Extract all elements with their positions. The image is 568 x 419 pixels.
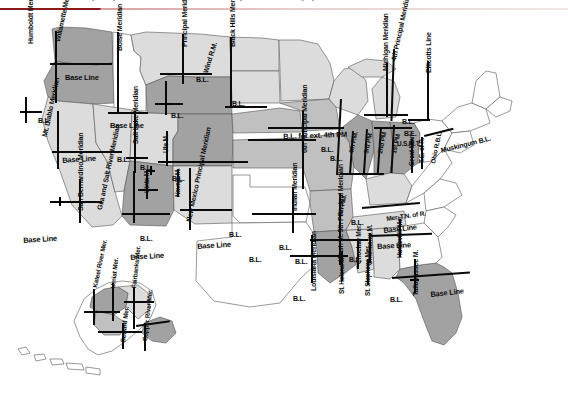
meridian-label-black-hills: Black Hills Meridian	[229, 0, 236, 47]
plss-map: .st{stroke:#555;stroke-width:0.6;stroke-…	[0, 11, 568, 419]
meridian-label-montana-principal: Principal Meridian	[181, 0, 188, 47]
state-south-dakota	[231, 71, 280, 103]
page-header-band: principal meridians and base lines of th…	[0, 0, 568, 11]
baseline-line-illinois	[340, 173, 384, 175]
state-nebraska	[232, 108, 302, 133]
bl-marker-bl-blackhills: B.L.	[232, 100, 244, 107]
baseline-line-oregon	[50, 63, 112, 65]
bl-marker-bl-texas: B.L.	[295, 258, 307, 265]
aleutian-island-3	[50, 359, 64, 365]
bl-marker-bl-oklahoma: B.L.	[279, 244, 291, 251]
baseline-label-bl-ext-4th: B.L. for ext. 4th PM	[283, 131, 347, 141]
meridian-label-ellicotts: Ellicotts Line	[425, 32, 432, 73]
meridian-label-huntsville: Huntsville Mer.	[397, 215, 404, 258]
bl-marker-bl-montana: B.L.	[196, 76, 208, 83]
state-oklahoma	[233, 175, 310, 223]
state-north-dakota	[230, 37, 279, 71]
bl-marker-bl-newmex2: B.L.	[140, 235, 152, 242]
bl-marker-bl-colorado: B.L.	[172, 175, 184, 182]
initial-point-humboldt	[21, 107, 30, 116]
aleutian-island-2	[34, 354, 46, 361]
meridian-label-indian: Indian Meridian	[291, 163, 298, 211]
initial-point-salt-lake	[130, 153, 139, 162]
meridian-line-wind-river	[165, 81, 167, 115]
bl-marker-bl-missouri: B.L.	[321, 146, 333, 153]
bl-marker-bl-illinois: B.L.	[351, 219, 363, 226]
bl-marker-bl-louisiana: B.L.	[293, 295, 305, 302]
baseline-line-montana	[160, 73, 212, 75]
meridian-label-sixth-principal: 6th Principal Meridian	[301, 85, 308, 153]
bl-marker-bl-alabama2: B.L.	[390, 296, 402, 303]
baseline-line-kateel-river	[84, 311, 120, 313]
initial-point-ute	[162, 157, 171, 166]
aleutian-island-4	[66, 363, 84, 370]
meridian-label-michigan: Michigan Meridian	[382, 13, 389, 71]
baseline-line-indian	[252, 213, 316, 215]
meridian-line-gila-salt	[133, 171, 135, 223]
meridian-label-san-bernardino: San Bernardino Meridian	[77, 133, 84, 211]
meridian-line-michigan	[386, 63, 388, 117]
meridian-label-st-helena: St. Helena M.	[339, 256, 346, 294]
meridian-label-st-stephens: St. Stephens Mer.	[365, 245, 372, 296]
meridian-label-humboldt: Humboldt Meridian	[27, 0, 34, 44]
meridian-label-boise: Boise Meridian	[116, 4, 123, 51]
meridian-label-ute: Ute M.	[163, 135, 170, 153]
baseline-line-gila-salt	[122, 213, 170, 215]
header-rule-divider	[0, 8, 568, 10]
bl-marker-bl-utah: B.L.	[140, 164, 152, 171]
meridian-line-black-hills	[230, 37, 232, 107]
baseline-line-boise	[108, 112, 148, 114]
meridian-label-te-of-r: T.E. of R.	[419, 138, 426, 163]
map-page: principal meridians and base lines of th…	[0, 0, 568, 419]
initial-point-wind-river	[161, 99, 170, 108]
baseline-label-bl-oregon: Base Line	[65, 74, 99, 82]
meridian-label-salt-lake: Salt Lake Meridian	[132, 86, 139, 144]
meridian-line-umiat	[112, 283, 114, 321]
baseline-label-bl-alabama: Base Line	[377, 241, 411, 250]
aleutian-island-5	[86, 367, 100, 375]
meridian-label-wash-m-5th: Wash M. 5th Principal Meridian	[337, 164, 344, 261]
aleutian-island-1	[18, 347, 30, 355]
meridian-label-louisiana: Louisiana Meridian	[310, 231, 317, 291]
initial-point-san-bernardino	[55, 197, 64, 206]
bl-marker-bl-indiana: B.L.	[402, 118, 414, 125]
bl-marker-bl-wyoming: B.L.	[171, 112, 183, 119]
header-caption-cropped: principal meridians and base lines of th…	[92, 0, 512, 5]
bl-marker-bl-kansas: B.L.	[229, 231, 241, 238]
state-kentucky	[366, 173, 412, 205]
bl-marker-bl-mississippi: B.L.	[349, 256, 361, 263]
meridian-line-mt-diablo	[57, 111, 59, 169]
bl-marker-bl-michigan: B.L.	[404, 130, 416, 137]
bl-marker-bl-nevada2: B.L.	[117, 156, 129, 163]
meridian-line-kateel-river	[93, 289, 95, 325]
bl-marker-bl-arkansas: B.L.	[330, 155, 342, 162]
meridian-line-fairbanks	[133, 287, 135, 329]
meridian-label-tallahassee: Tallahassee M.	[412, 250, 419, 296]
state-missouri	[303, 133, 354, 191]
baseline-line-michigan	[364, 114, 408, 116]
baseline-label-bl-idaho: Base Line	[110, 122, 144, 130]
meridian-label-navajo: Navajo M.	[175, 168, 182, 197]
bl-marker-bl-humboldt: B.L.	[38, 117, 50, 124]
meridian-label-uintah: Uinta M.	[144, 169, 151, 193]
bl-marker-bl-texas2: B.L.	[249, 256, 261, 263]
state-wyoming	[146, 76, 232, 114]
